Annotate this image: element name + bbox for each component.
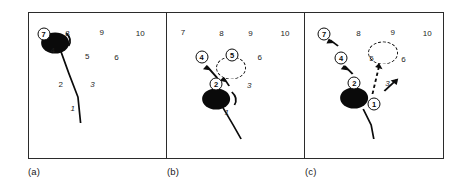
- motion-arrowhead-icon: [203, 65, 211, 71]
- cue-ball: [202, 88, 230, 109]
- ball-number: 8: [65, 30, 69, 38]
- ball-number: 6: [258, 54, 262, 62]
- sequence-marker: 7: [317, 28, 330, 41]
- spin-arc-icon: [232, 92, 236, 105]
- sequence-marker: 2: [348, 77, 361, 90]
- panel-c: 7 4 2 1 8 9 10 5 6 3: [304, 12, 444, 159]
- sequence-marker: 5: [226, 49, 239, 62]
- ball-number: 4: [51, 47, 55, 55]
- ball-number: 10: [281, 30, 290, 38]
- panel-caption-c: (c): [305, 166, 317, 177]
- panel-row: 7 8 9 10 5 6 4 2 3 1 4 5: [28, 12, 444, 159]
- panel-caption-a: (a): [28, 166, 40, 177]
- ball-number: 6: [114, 54, 118, 62]
- ball-number: 10: [423, 30, 432, 38]
- ball-number: 3: [385, 80, 389, 88]
- ball-number: 2: [59, 81, 63, 89]
- ball-number: 6: [401, 56, 405, 64]
- cue-trajectory-line: [364, 109, 375, 139]
- sequence-marker: 4: [335, 51, 348, 64]
- ball-number: 5: [369, 55, 373, 63]
- ball-number: 1: [225, 109, 229, 117]
- sequence-marker: 1: [368, 98, 381, 111]
- sequence-marker: 4: [195, 50, 208, 63]
- motion-arrowhead-icon: [327, 39, 335, 44]
- ball-number: 3: [90, 81, 94, 89]
- ball-number: 9: [248, 30, 252, 38]
- ball-number: 8: [219, 30, 223, 38]
- ball-number: 7: [181, 29, 185, 37]
- ball-number: 10: [136, 30, 145, 38]
- sequence-marker: 7: [37, 28, 50, 41]
- object-ball-dashed-path: [373, 66, 380, 94]
- figure-container: 7 8 9 10 5 6 4 2 3 1 4 5: [0, 0, 472, 190]
- motion-arrowhead-icon: [341, 65, 349, 70]
- panel-caption-b: (b): [167, 166, 179, 177]
- ball-number: 9: [100, 29, 104, 37]
- panel-a: 7 8 9 10 5 6 4 2 3 1: [28, 12, 168, 159]
- ball-number: 1: [70, 105, 74, 113]
- sequence-marker: 2: [210, 78, 223, 91]
- cue-ball: [340, 87, 368, 108]
- ball-number: 9: [391, 29, 395, 37]
- ball-number: 3: [247, 82, 251, 90]
- ball-number: 8: [356, 30, 360, 38]
- ball-number: 5: [85, 53, 89, 61]
- panel-b: 4 5 2 7 8 9 10 6 3 1: [166, 12, 306, 159]
